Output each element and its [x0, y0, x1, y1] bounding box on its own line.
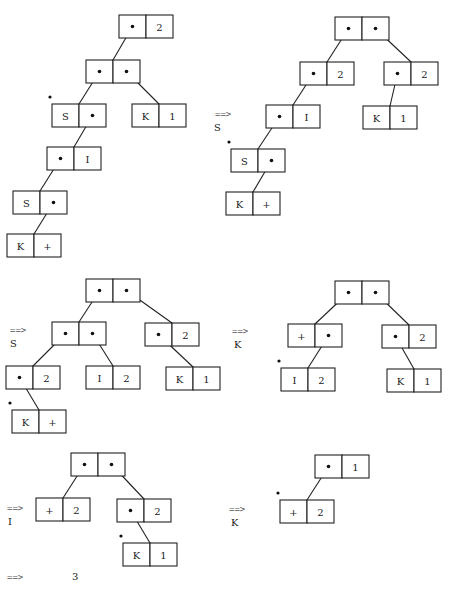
reduction-step-3: +2I2K1==>K: [232, 281, 441, 392]
node-right-label: +: [43, 241, 51, 252]
rule-label: S: [214, 122, 221, 133]
pointer-dot-icon: [396, 72, 400, 76]
application-node: +2: [36, 498, 90, 521]
pointer-dot-icon: [278, 115, 282, 119]
application-node: 2: [117, 499, 171, 522]
node-left-label: +: [289, 507, 297, 518]
node-left-label: S: [62, 111, 69, 122]
node-left-label: K: [236, 199, 244, 210]
redex-marker-icon: [8, 401, 11, 404]
application-node: 2: [384, 62, 438, 85]
pointer-dot-icon: [18, 376, 22, 380]
node-left-label: K: [22, 417, 30, 428]
node-left-label: S: [241, 156, 248, 167]
application-node: [52, 322, 106, 345]
pointer-dot-icon: [270, 159, 274, 163]
pointer-dot-icon: [125, 289, 129, 293]
pointer-dot-icon: [98, 289, 102, 293]
node-right-label: 2: [421, 69, 427, 80]
pointer-dot-icon: [394, 335, 398, 339]
pointer-dot-icon: [98, 70, 102, 74]
reduces-to-arrow: ==>: [7, 572, 24, 582]
node-left-label: K: [142, 111, 150, 122]
application-node: 2: [300, 62, 354, 85]
pointer-dot-icon: [59, 157, 63, 161]
pointer-dot-icon: [129, 509, 133, 513]
rule-label: I: [8, 516, 12, 527]
pointer-dot-icon: [327, 465, 331, 469]
application-node: 2: [145, 323, 199, 346]
node-right-label: 2: [337, 69, 343, 80]
reduces-to-arrow: ==>: [232, 326, 249, 336]
application-node: K1: [387, 369, 441, 392]
redex-marker-icon: [119, 534, 122, 537]
application-node: K+: [7, 234, 61, 257]
application-node: I: [47, 147, 101, 170]
rule-label: K: [234, 339, 242, 350]
node-right-label: I: [305, 112, 309, 123]
pointer-dot-icon: [110, 463, 114, 467]
node-left-label: I: [98, 373, 102, 384]
redex-marker-icon: [227, 140, 230, 143]
reduces-to-arrow: ==>: [10, 325, 27, 335]
node-right-label: 1: [400, 113, 406, 124]
application-node: K1: [363, 106, 417, 129]
application-node: I2: [277, 359, 335, 391]
rule-label: K: [231, 517, 239, 528]
node-left-label: K: [397, 376, 405, 387]
redex-marker-icon: [276, 491, 279, 494]
reduction-step-5: 1+2==>K: [229, 455, 369, 528]
node-right-label: 2: [318, 375, 324, 386]
pointer-dot-icon: [131, 25, 135, 29]
node-right-label: 1: [160, 550, 166, 561]
node-right-label: 2: [123, 373, 129, 384]
pointer-dot-icon: [83, 463, 87, 467]
pointer-dot-icon: [374, 291, 378, 295]
reduction-step-2: 22I2K1K+==>S: [6, 279, 220, 433]
pointer-dot-icon: [312, 72, 316, 76]
reduces-to-arrow: ==>: [229, 504, 246, 514]
reduction-diagram: 2SK1ISK+22IK1SK+==>S22I2K1K+==>S+2I2K1==…: [0, 0, 450, 592]
application-node: 1: [315, 455, 369, 478]
application-node: K1: [132, 104, 186, 127]
application-node: 2: [119, 15, 173, 38]
rule-label: S: [10, 338, 17, 349]
application-node: [335, 281, 389, 304]
node-right-label: 1: [352, 462, 358, 473]
application-node: 2: [6, 366, 60, 389]
node-right-label: +: [262, 199, 270, 210]
node-right-label: 1: [424, 376, 430, 387]
pointer-dot-icon: [157, 333, 161, 337]
application-node: +: [288, 324, 342, 347]
application-node: S: [227, 140, 285, 172]
reduction-step-0: 2SK1ISK+: [7, 15, 186, 257]
node-right-label: 2: [73, 505, 79, 516]
pointer-dot-icon: [347, 291, 351, 295]
reduces-to-arrow: ==>: [215, 109, 232, 119]
node-left-label: +: [297, 331, 305, 342]
pointer-dot-icon: [52, 201, 56, 205]
application-node: [86, 60, 140, 83]
application-node: 2: [382, 325, 436, 348]
pointer-dot-icon: [91, 332, 95, 336]
node-right-label: 2: [156, 22, 162, 33]
pointer-dot-icon: [125, 70, 129, 74]
application-node: [335, 17, 389, 40]
pointer-dot-icon: [347, 27, 351, 31]
node-right-label: I: [86, 154, 90, 165]
node-left-label: K: [133, 550, 141, 561]
node-right-label: 2: [419, 332, 425, 343]
application-node: +2: [276, 491, 334, 523]
node-left-label: I: [293, 375, 297, 386]
node-right-label: 1: [203, 374, 209, 385]
reduction-step-4: +22K1==>I: [7, 453, 177, 566]
node-left-label: K: [17, 241, 25, 252]
application-node: [86, 279, 140, 302]
node-right-label: +: [48, 417, 56, 428]
node-left-label: K: [176, 374, 184, 385]
reduction-step-6: ==>3: [7, 571, 78, 582]
node-right-label: 2: [317, 507, 323, 518]
redex-marker-icon: [48, 95, 51, 98]
pointer-dot-icon: [374, 27, 378, 31]
node-right-label: 2: [182, 330, 188, 341]
